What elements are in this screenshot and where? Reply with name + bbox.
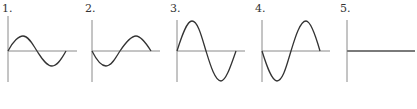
panel-1 <box>8 16 77 82</box>
panel-4 <box>262 20 330 82</box>
waveform-diagram <box>0 0 417 109</box>
panel-2 <box>92 20 160 82</box>
panel-5 <box>347 20 415 82</box>
panel-3 <box>177 20 245 82</box>
